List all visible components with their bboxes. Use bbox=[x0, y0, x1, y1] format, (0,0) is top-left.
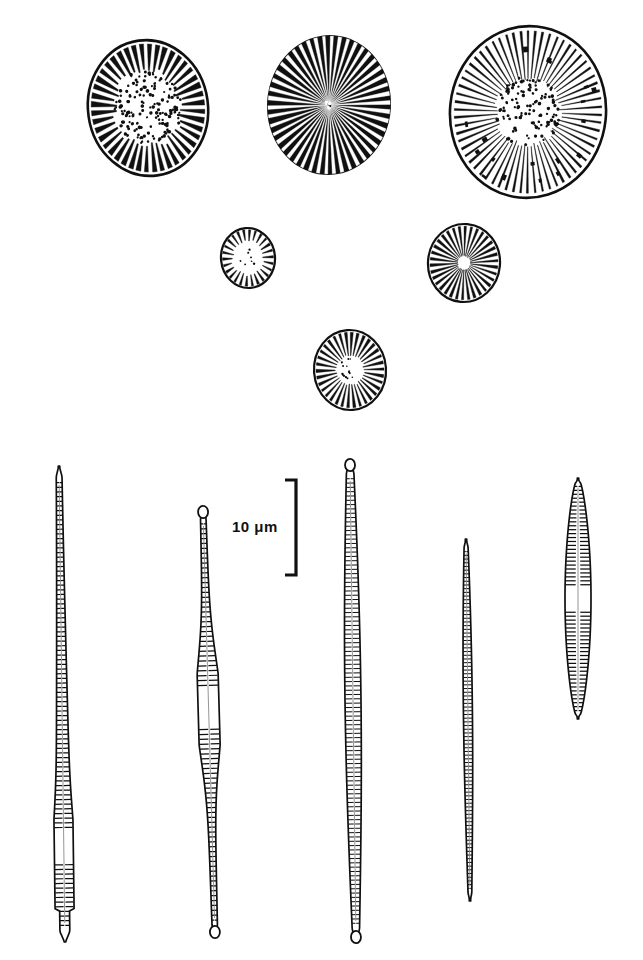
capitate-apex bbox=[351, 931, 361, 944]
diatom-illustration bbox=[0, 0, 643, 960]
marginal-spot bbox=[530, 162, 534, 166]
marginal-spot bbox=[523, 47, 528, 53]
capitate-apex bbox=[210, 926, 220, 939]
diatom-figure-plate: 10 μm bbox=[0, 0, 643, 960]
capitate-apex bbox=[345, 459, 355, 472]
marginal-spot bbox=[581, 119, 586, 123]
capitate-apex bbox=[198, 506, 208, 519]
scale-bar-label: 10 μm bbox=[232, 518, 278, 535]
